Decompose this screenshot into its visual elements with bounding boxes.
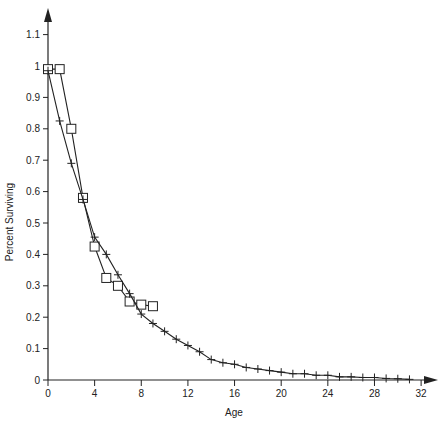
plus-marker-icon: [56, 117, 64, 125]
x-tick-label: 0: [45, 388, 51, 399]
survival-chart: 00.10.20.30.40.50.60.70.80.911.104812162…: [0, 0, 442, 427]
y-tick-label: 0.6: [26, 186, 40, 197]
series-crosses: [44, 67, 413, 384]
square-marker-icon: [102, 273, 111, 282]
square-marker-icon: [113, 281, 122, 290]
square-marker-icon: [67, 124, 76, 133]
y-tick-label: 0.8: [26, 123, 40, 134]
x-axis-arrow-icon: [424, 376, 438, 384]
plus-marker-icon: [231, 360, 239, 368]
plus-marker-icon: [254, 365, 262, 373]
y-tick-label: 0: [34, 375, 40, 386]
y-tick-label: 0.7: [26, 155, 40, 166]
plus-marker-icon: [301, 370, 309, 378]
plus-marker-icon: [219, 359, 227, 367]
square-marker-icon: [55, 65, 64, 74]
data-series: [44, 65, 414, 384]
axes: 00.10.20.30.40.50.60.70.80.911.104812162…: [26, 8, 438, 399]
plus-marker-icon: [207, 356, 215, 364]
plus-marker-icon: [312, 371, 320, 379]
x-tick-label: 28: [369, 388, 381, 399]
plus-marker-icon: [67, 159, 75, 167]
x-tick-label: 4: [92, 388, 98, 399]
x-axis-title: Age: [225, 407, 243, 418]
plus-marker-icon: [126, 290, 134, 298]
plus-marker-icon: [266, 367, 274, 375]
y-tick-label: 0.2: [26, 312, 40, 323]
y-axis-arrow-icon: [44, 8, 52, 22]
y-tick-label: 0.9: [26, 92, 40, 103]
plus-marker-icon: [394, 375, 402, 383]
x-tick-label: 12: [182, 388, 194, 399]
series-line: [48, 71, 409, 380]
y-tick-label: 0.1: [26, 343, 40, 354]
y-tick-label: 0.3: [26, 280, 40, 291]
plus-marker-icon: [161, 327, 169, 335]
plus-marker-icon: [172, 335, 180, 343]
plus-marker-icon: [196, 348, 204, 356]
x-tick-label: 20: [276, 388, 288, 399]
y-axis-title: Percent Surviving: [4, 183, 15, 261]
plus-marker-icon: [324, 371, 332, 379]
y-tick-label: 1: [34, 61, 40, 72]
plus-marker-icon: [382, 374, 390, 382]
y-tick-label: 0.4: [26, 249, 40, 260]
plus-marker-icon: [242, 363, 250, 371]
square-marker-icon: [148, 302, 157, 311]
plus-marker-icon: [184, 341, 192, 349]
x-tick-label: 32: [416, 388, 428, 399]
y-tick-label: 0.5: [26, 218, 40, 229]
y-tick-label: 1.1: [26, 29, 40, 40]
plus-marker-icon: [405, 375, 413, 383]
series-line: [48, 69, 153, 306]
square-marker-icon: [90, 242, 99, 251]
x-tick-label: 24: [322, 388, 334, 399]
x-tick-label: 16: [229, 388, 241, 399]
series-squares: [44, 65, 158, 311]
x-tick-label: 8: [138, 388, 144, 399]
plus-marker-icon: [289, 370, 297, 378]
plus-marker-icon: [114, 271, 122, 279]
plus-marker-icon: [102, 250, 110, 258]
plus-marker-icon: [277, 368, 285, 376]
